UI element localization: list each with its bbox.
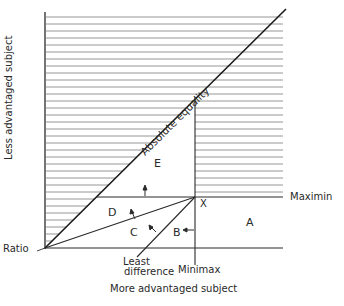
- region-e: E: [154, 157, 161, 170]
- justice-diagram: Absolute equality Less advantaged subjec…: [0, 0, 344, 306]
- label-point-x: X: [200, 198, 207, 209]
- ratio-line: [45, 197, 195, 248]
- region-c: C: [130, 226, 138, 239]
- label-ratio: Ratio: [3, 243, 29, 254]
- label-minimax: Minimax: [178, 264, 220, 275]
- x-axis-label: More advantaged subject: [110, 283, 237, 294]
- label-difference: difference: [124, 266, 174, 277]
- y-axis-label: Less advantaged subject: [3, 36, 14, 160]
- region-d: D: [108, 206, 116, 219]
- ratio-leader: [37, 248, 45, 251]
- label-maximin: Maximin: [290, 191, 332, 202]
- region-a: A: [246, 216, 254, 229]
- label-absolute-equality: Absolute equality: [138, 84, 211, 157]
- region-b: B: [173, 226, 181, 239]
